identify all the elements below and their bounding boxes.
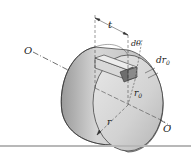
axis-left [33, 52, 68, 70]
cylinder-diagram: O t dθ dr0 r0 r O [0, 0, 191, 161]
axis-left-label: O [24, 45, 32, 56]
angle-label: dθ [131, 39, 141, 48]
axis-right-label: O [163, 123, 171, 134]
bottom-divider [0, 145, 191, 147]
outer-radius-label: r [107, 117, 112, 127]
length-label: t [108, 19, 113, 30]
radial-width-label: dr0 [156, 55, 170, 66]
